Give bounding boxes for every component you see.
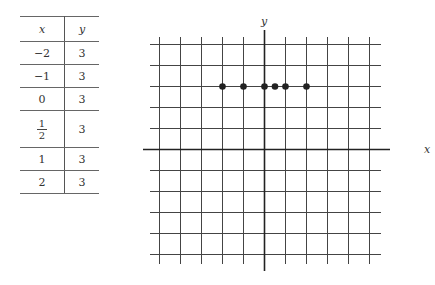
y-axis-label: y: [260, 15, 268, 28]
data-point: [261, 83, 268, 90]
data-point: [219, 83, 226, 90]
x-axis-label: x: [424, 143, 431, 156]
data-point: [272, 83, 279, 90]
data-point: [282, 83, 289, 90]
data-point: [303, 83, 310, 90]
data-point: [240, 83, 247, 90]
coordinate-grid: x y: [0, 0, 435, 285]
grid-lines: [150, 37, 381, 264]
